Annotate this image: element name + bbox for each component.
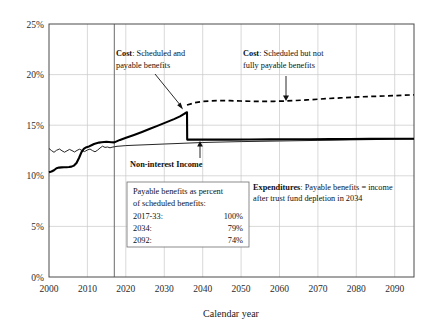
anno-cost1-bold: Cost — [116, 49, 132, 58]
payable-box-row-0-label: 2017-33: — [133, 212, 163, 221]
series-cost-scheduled-not-payable — [187, 95, 414, 105]
xtick-2080: 2080 — [347, 284, 366, 294]
xtick-2040: 2040 — [193, 284, 212, 294]
xtick-2050: 2050 — [232, 284, 251, 294]
xtick-2000: 2000 — [40, 284, 59, 294]
series-cost-scheduled-and-payable — [49, 112, 414, 172]
xtick-2020: 2020 — [116, 284, 135, 294]
payable-benefits-box: Payable benefits as percent of scheduled… — [127, 182, 249, 247]
ytick-5: 5% — [31, 222, 44, 232]
payable-box-row-2-value: 74% — [228, 236, 243, 245]
payable-box-title-1: Payable benefits as percent — [133, 187, 224, 196]
expenditures-line2: after trust fund depletion in 2034 — [253, 194, 363, 203]
anno-cost2-line2: fully payable benefits — [243, 61, 315, 70]
xtick-2010: 2010 — [78, 284, 97, 294]
series-non-interest-income — [49, 139, 414, 152]
svg-text:Cost: Scheduled but not: Cost: Scheduled but not — [243, 49, 324, 58]
y-axis-ticks: 25% 20% 15% 10% 5% 0% — [27, 20, 45, 283]
svg-text:Cost: Scheduled and: Cost: Scheduled and — [116, 49, 186, 58]
xtick-2090: 2090 — [385, 284, 404, 294]
anno-income-arrowhead — [197, 141, 203, 147]
social-security-cost-income-chart: Cost: Scheduled and payable benefits Cos… — [0, 0, 436, 335]
svg-text:Expenditures: Payable benefits: Expenditures: Payable benefits = income — [253, 183, 393, 192]
anno-cost1-rest: : Scheduled and — [132, 49, 186, 58]
x-axis-title: Calendar year — [203, 308, 259, 319]
anno-cost1-line2: payable benefits — [116, 61, 170, 70]
xtick-2060: 2060 — [270, 284, 289, 294]
payable-box-row-2-label: 2092: — [133, 236, 152, 245]
ytick-10: 10% — [27, 171, 45, 181]
payable-box-row-1-label: 2034: — [133, 224, 152, 233]
ytick-20: 20% — [27, 70, 45, 80]
ytick-25: 25% — [27, 20, 45, 30]
expenditures-rest: : Payable benefits = income — [300, 183, 393, 192]
ytick-0: 0% — [31, 273, 44, 283]
annotation-cost-scheduled-payable: Cost: Scheduled and payable benefits — [116, 49, 186, 110]
annotation-cost-not-fully-payable: Cost: Scheduled but not fully payable be… — [243, 49, 324, 101]
expenditures-bold: Expenditures — [253, 183, 301, 192]
anno-income-label: Non-interest Income — [130, 160, 203, 169]
ytick-15: 15% — [27, 121, 45, 131]
chart-figure: Cost: Scheduled and payable benefits Cos… — [0, 0, 436, 335]
payable-box-row-0-value: 100% — [224, 212, 243, 221]
xtick-2030: 2030 — [155, 284, 174, 294]
payable-box-title-2: of scheduled benefits: — [133, 199, 206, 208]
x-axis-ticks: 2000 2010 2020 2030 2040 2050 2060 2070 … — [40, 284, 405, 294]
anno-cost2-bold: Cost — [243, 49, 259, 58]
xtick-2070: 2070 — [308, 284, 327, 294]
payable-box-row-1-value: 79% — [228, 224, 243, 233]
anno-cost1-arrowhead — [177, 102, 183, 109]
expenditures-box: Expenditures: Payable benefits = income … — [253, 183, 393, 203]
anno-cost2-rest: : Scheduled but not — [259, 49, 324, 58]
